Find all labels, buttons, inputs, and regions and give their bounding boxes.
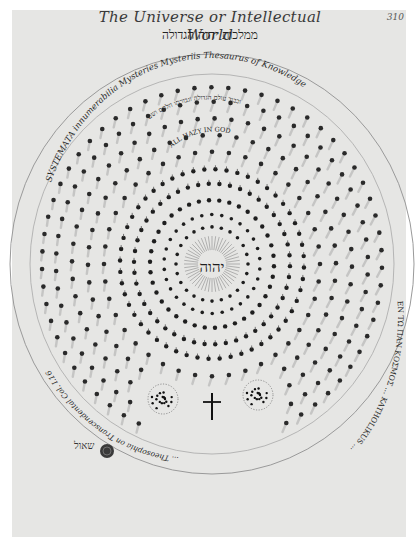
comet-head	[147, 132, 152, 137]
comet-head	[316, 244, 321, 249]
sun-ray	[184, 266, 198, 268]
comet-head	[360, 307, 365, 312]
ring-dot	[149, 249, 153, 253]
ring-dot	[192, 230, 196, 234]
comet-head	[176, 369, 181, 374]
cluster-dot	[265, 397, 267, 399]
comet-head	[330, 158, 335, 163]
seal-emblem	[100, 444, 114, 458]
ring-dot	[201, 298, 205, 302]
ring-dot	[175, 253, 179, 257]
cluster-dot	[260, 397, 262, 399]
ring-dot	[185, 288, 189, 292]
comet-head	[334, 261, 339, 266]
comet-head	[338, 378, 343, 383]
ring-dot	[245, 253, 249, 257]
comet-head	[100, 127, 105, 132]
cluster-dot	[250, 403, 252, 405]
comet-head	[72, 365, 77, 370]
comet-head	[46, 214, 51, 219]
comet-head	[262, 127, 267, 132]
comet-head	[332, 243, 337, 248]
cluster-dot	[163, 402, 165, 404]
comet-head	[306, 211, 311, 216]
comet-head	[108, 403, 113, 408]
comet-head	[96, 314, 101, 319]
comet-head	[313, 360, 318, 365]
ring-dot	[207, 198, 211, 202]
ring-dot	[227, 200, 231, 204]
comet-head	[364, 237, 369, 242]
comet-head	[210, 149, 215, 154]
comet-head	[277, 115, 282, 120]
ring-dot	[250, 310, 254, 314]
ring-dot	[150, 280, 154, 284]
comet-head	[143, 99, 148, 104]
ring-dot	[148, 260, 152, 264]
cluster-dot	[167, 405, 169, 407]
comet-head	[40, 267, 45, 272]
ring-dot	[252, 287, 256, 291]
comet-head	[212, 116, 217, 121]
comet-head	[316, 279, 321, 284]
comet-head	[378, 283, 383, 288]
ring-dot	[162, 257, 166, 261]
comet-head	[107, 163, 112, 168]
comet-head	[346, 229, 351, 234]
ring-dot	[269, 243, 273, 247]
comet-head	[316, 328, 321, 333]
ring-dot	[256, 277, 260, 281]
ring-dot	[246, 295, 250, 299]
comet-head	[306, 342, 311, 347]
comet-head	[373, 213, 378, 218]
comet-head	[114, 344, 119, 349]
cluster-dot	[159, 401, 161, 403]
ring-dot	[152, 239, 156, 243]
comet-head	[289, 402, 294, 407]
comet-head	[326, 181, 331, 186]
ring-dot	[220, 298, 224, 302]
comet-head	[131, 122, 136, 127]
cluster-dot	[254, 388, 256, 390]
comet-head	[368, 197, 373, 202]
ring-dot	[246, 229, 250, 233]
comet-head	[327, 368, 332, 373]
comet-head	[64, 320, 69, 325]
comet-head	[63, 351, 68, 356]
comet-head	[324, 312, 329, 317]
ring-dot	[217, 198, 221, 202]
ring-dot	[241, 281, 245, 285]
cluster-dot	[162, 396, 164, 398]
dotted-cluster-right	[243, 380, 273, 410]
cluster-dot	[256, 398, 258, 400]
comet-head	[292, 124, 297, 129]
comet-head	[126, 357, 131, 362]
ring-dot	[210, 299, 214, 303]
comet-head	[90, 365, 95, 370]
comet-head	[245, 104, 250, 109]
ring-dot	[220, 226, 224, 230]
ring-dot	[242, 316, 246, 320]
comet-head	[246, 121, 251, 126]
cluster-dot	[265, 392, 267, 394]
comet-head	[70, 259, 75, 264]
comet-head	[261, 109, 266, 114]
comet-head	[128, 400, 133, 405]
ring-dot	[183, 319, 187, 323]
comet-head	[82, 169, 87, 174]
cross-symbol	[203, 393, 221, 420]
cluster-dot	[159, 392, 161, 394]
comet-head	[357, 350, 362, 355]
cluster-dot	[257, 387, 259, 389]
ring-dot	[200, 214, 204, 218]
comet-head	[122, 413, 127, 418]
ring-dot	[230, 217, 234, 221]
ring-dot	[179, 281, 183, 285]
cluster-dot	[251, 390, 253, 392]
ring-dot	[175, 272, 179, 276]
ring-dot	[185, 236, 189, 240]
comet-head	[209, 85, 214, 90]
comet-head	[349, 247, 354, 252]
cluster-dot	[250, 394, 252, 396]
comet-head	[101, 378, 106, 383]
